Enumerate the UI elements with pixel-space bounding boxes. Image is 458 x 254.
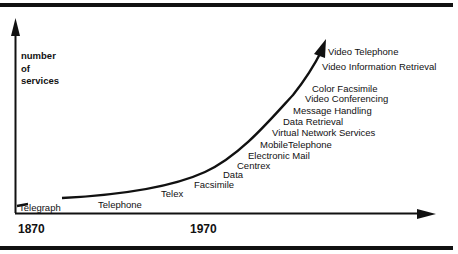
y-label-line-1: number xyxy=(21,50,59,63)
service-label: Telex xyxy=(161,189,183,199)
service-label: Data Retrieval xyxy=(283,117,343,127)
y-label-line-3: services xyxy=(21,75,59,88)
service-label: Telephone xyxy=(98,200,142,210)
y-label-line-2: of xyxy=(21,63,59,76)
plot-area xyxy=(0,0,458,254)
service-label: Centrex xyxy=(237,161,270,171)
service-label: MobileTelephone xyxy=(260,140,332,150)
service-label: Facsimile xyxy=(194,180,234,190)
y-axis-arrow-icon xyxy=(11,18,20,36)
service-label: Telegraph xyxy=(19,203,61,213)
service-label: Data xyxy=(223,170,243,180)
service-label: Electronic Mail xyxy=(248,151,310,161)
service-label: Video Telephone xyxy=(328,47,398,57)
x-tick-1970: 1970 xyxy=(190,222,217,236)
x-tick-1870: 1870 xyxy=(18,222,45,236)
x-axis-arrow-icon xyxy=(417,209,436,219)
service-label: Video Conferencing xyxy=(305,94,388,104)
curve-arrow-icon xyxy=(314,39,326,58)
y-axis-label: number of services xyxy=(21,50,59,88)
service-label: Color Facsimile xyxy=(312,84,377,94)
service-label: Video Information Retrieval xyxy=(322,62,436,72)
service-label: Virtual Network Services xyxy=(272,128,375,138)
service-label: Message Handling xyxy=(293,106,372,116)
